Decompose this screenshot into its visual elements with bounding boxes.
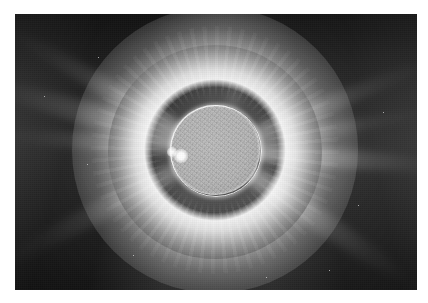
star-point [358, 205, 359, 206]
eclipse-photograph-page [0, 0, 428, 303]
eclipse-photo-plate [15, 14, 417, 290]
star-point [98, 57, 99, 58]
star-point [44, 96, 45, 97]
prominence-bright-spot [174, 149, 187, 162]
star-point [383, 112, 384, 113]
star-point [329, 270, 330, 271]
